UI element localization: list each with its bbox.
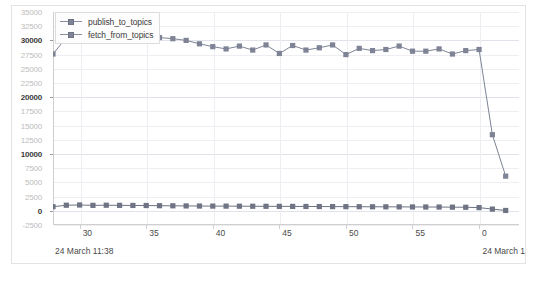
- x-axis-tick-mark: [279, 225, 280, 229]
- y-axis-tick-label: 22500: [21, 79, 42, 88]
- y-axis-tick-label: 27500: [21, 50, 42, 59]
- x-axis-tick-label: 55: [415, 228, 424, 238]
- y-axis-tick-label: 7500: [25, 164, 42, 173]
- series-marker: [357, 204, 362, 209]
- y-axis-tick-label: 5000: [25, 178, 42, 187]
- y-axis-tick-label: 32500: [21, 22, 42, 31]
- series-marker: [144, 203, 149, 208]
- series-marker: [343, 204, 348, 209]
- series-marker: [170, 203, 175, 208]
- legend-label: publish_to_topics: [88, 17, 152, 27]
- x-axis-tick-mark: [213, 225, 214, 229]
- series-marker: [277, 51, 282, 56]
- y-axis-tick-label: 0: [38, 206, 42, 215]
- series-marker: [170, 36, 175, 41]
- series-marker: [130, 203, 135, 208]
- x-axis-tick-mark: [412, 225, 413, 229]
- series-marker: [303, 204, 308, 209]
- series-marker: [450, 205, 455, 210]
- series-marker: [437, 204, 442, 209]
- series-marker: [463, 205, 468, 210]
- series-marker: [277, 204, 282, 209]
- y-axis-tick-label: 25000: [21, 64, 42, 73]
- x-axis-tick-mark: [346, 225, 347, 229]
- footer-end-timestamp: 24 March 1: [482, 246, 525, 256]
- y-axis-tick-label: 20000: [21, 93, 42, 102]
- series-marker: [223, 46, 228, 51]
- x-axis-tick-label: 50: [349, 228, 358, 238]
- x-axis-tick-label: 0: [482, 228, 487, 238]
- series-marker: [90, 203, 95, 208]
- series-marker: [290, 204, 295, 209]
- y-axis-tick-label: 2500: [25, 192, 42, 201]
- series-line: [53, 36, 506, 176]
- series-marker: [157, 203, 162, 208]
- x-axis-tick-mark: [80, 225, 81, 229]
- legend-item-publish-to-topics[interactable]: publish_to_topics: [60, 16, 153, 27]
- series-marker: [117, 203, 122, 208]
- x-axis: 3035404550550: [53, 225, 519, 243]
- series-marker: [490, 207, 495, 212]
- series-marker: [343, 52, 348, 57]
- series-marker: [423, 204, 428, 209]
- series-marker: [490, 132, 495, 137]
- legend-marker-icon: [60, 17, 82, 26]
- series-marker: [290, 43, 295, 48]
- series-marker: [503, 174, 508, 179]
- series-marker: [237, 204, 242, 209]
- series-marker: [503, 208, 508, 213]
- series-marker: [383, 204, 388, 209]
- series-publish-to-topics: [53, 202, 508, 213]
- y-axis-tick-label: 30000: [21, 36, 42, 45]
- chart-container: 3500032500300002750025000225002000017500…: [0, 0, 538, 284]
- series-marker: [317, 204, 322, 209]
- x-axis-tick-label: 45: [282, 228, 291, 238]
- series-marker: [263, 204, 268, 209]
- y-axis: 3500032500300002750025000225002000017500…: [0, 12, 50, 225]
- series-marker: [330, 204, 335, 209]
- x-axis-tick-mark: [146, 225, 147, 229]
- series-marker: [410, 49, 415, 54]
- series-fetch-from-topics: [53, 34, 508, 179]
- series-marker: [184, 38, 189, 43]
- series-marker: [104, 203, 109, 208]
- series-marker: [437, 46, 442, 51]
- series-marker: [476, 205, 481, 210]
- chart-legend: publish_to_topics fetch_from_topics: [55, 12, 160, 44]
- series-marker: [397, 204, 402, 209]
- series-marker: [237, 43, 242, 48]
- y-axis-tick-label: 10000: [21, 150, 42, 159]
- series-marker: [210, 203, 215, 208]
- series-marker: [397, 43, 402, 48]
- series-marker: [450, 51, 455, 56]
- x-axis-tick-label: 35: [149, 228, 158, 238]
- y-axis-tick-label: 17500: [21, 107, 42, 116]
- series-marker: [476, 47, 481, 52]
- series-marker: [370, 48, 375, 53]
- x-axis-tick-label: 30: [83, 228, 92, 238]
- series-marker: [223, 204, 228, 209]
- series-marker: [77, 202, 82, 207]
- y-axis-tick-label: 15000: [21, 121, 42, 130]
- x-axis-tick-mark: [479, 225, 480, 229]
- legend-marker-icon: [60, 30, 82, 39]
- x-axis-tick-label: 40: [216, 228, 225, 238]
- y-axis-tick-label: -2500: [23, 221, 42, 230]
- series-marker: [357, 46, 362, 51]
- series-marker: [330, 42, 335, 47]
- y-axis-tick-label: 12500: [21, 135, 42, 144]
- footer-start-timestamp: 24 March 11:38: [55, 246, 113, 256]
- series-marker: [250, 204, 255, 209]
- y-axis-tick-label: 35000: [21, 8, 42, 17]
- legend-item-fetch-from-topics[interactable]: fetch_from_topics: [60, 29, 153, 40]
- series-marker: [383, 47, 388, 52]
- series-marker: [303, 47, 308, 52]
- series-marker: [370, 204, 375, 209]
- series-marker: [423, 49, 428, 54]
- series-marker: [64, 203, 69, 208]
- series-marker: [184, 203, 189, 208]
- series-marker: [463, 48, 468, 53]
- series-marker: [197, 41, 202, 46]
- legend-label: fetch_from_topics: [88, 30, 153, 40]
- series-marker: [263, 42, 268, 47]
